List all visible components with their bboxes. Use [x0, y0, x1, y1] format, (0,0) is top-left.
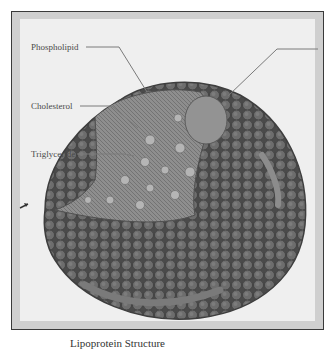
figure-caption: Lipoprotein Structure — [70, 337, 165, 349]
label-phospholipid: Phospholipid — [31, 42, 79, 52]
label-triglyceride: Triglyceride — [31, 149, 75, 159]
apolipoprotein — [185, 96, 227, 144]
arrow-icon — [20, 203, 28, 208]
label-cholesterol: Cholesterol — [31, 101, 73, 111]
